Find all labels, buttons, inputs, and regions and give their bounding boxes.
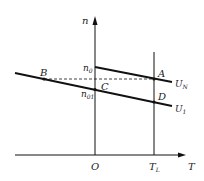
point-a-label: A bbox=[157, 68, 165, 79]
point-d-marker bbox=[152, 100, 155, 103]
point-b-label: B bbox=[39, 67, 47, 78]
origin-label: O bbox=[91, 161, 99, 172]
x-axis-label: T bbox=[188, 161, 196, 172]
speed-torque-diagram: n O T TL n0 n01 A B C D UN U1 bbox=[0, 0, 204, 181]
n01-label: n01 bbox=[81, 89, 94, 100]
point-a-marker bbox=[152, 77, 155, 80]
point-c-label: C bbox=[101, 81, 109, 92]
y-axis-arrow-icon bbox=[93, 16, 98, 25]
y-axis-label: n bbox=[82, 15, 88, 26]
curve-un-label: UN bbox=[175, 79, 189, 90]
point-c-marker bbox=[93, 88, 96, 91]
x-axis-arrow-icon bbox=[178, 153, 186, 158]
curve-u1-label: U1 bbox=[175, 104, 186, 115]
tl-label: TL bbox=[149, 161, 160, 173]
n0-label: n0 bbox=[83, 63, 93, 74]
point-d-label: D bbox=[157, 91, 166, 102]
